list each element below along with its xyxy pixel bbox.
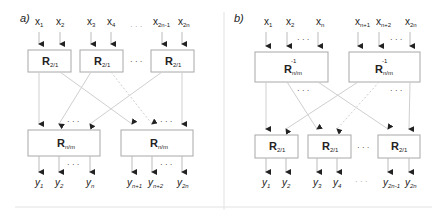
r21-block: R2/1 [151, 50, 194, 72]
svg-text:· · ·: · · · [355, 177, 367, 186]
r21-block: R2/1 [378, 135, 420, 158]
input-label: x2n-1 [153, 16, 171, 28]
svg-text:· · ·: · · · [160, 117, 172, 126]
svg-text:· · ·: · · · [160, 160, 172, 169]
ellipsis: · · · [130, 57, 142, 66]
svg-text:-1: -1 [291, 58, 297, 64]
output-label: y1 [261, 177, 270, 189]
input-label: x2n [178, 16, 190, 28]
panel-b-label: b) [234, 12, 244, 24]
output-label: y1 [34, 177, 43, 189]
output-label: y2n [404, 177, 417, 189]
diagram-canvas: a) x1 x2 x3 x4 x2n-1 x2n · · · R2/1 R [0, 0, 441, 217]
input-label: x2 [286, 16, 295, 28]
output-label: y4 [332, 177, 342, 189]
output-label: yn [85, 177, 95, 189]
output-label: yn+1 [126, 177, 142, 189]
output-label: y2 [54, 177, 64, 189]
input-label: x1 [35, 16, 44, 28]
output-label: y2n-1 [382, 177, 400, 189]
svg-text:-1: -1 [382, 58, 388, 64]
output-label: yn+2 [147, 177, 164, 189]
input-label: x1 [264, 16, 273, 28]
rnm-block: Rn/m [121, 130, 193, 156]
ellipsis: · · · [357, 143, 369, 152]
svg-text:· · ·: · · · [297, 86, 309, 95]
input-label: x4 [107, 16, 116, 28]
output-label: y2n [176, 177, 189, 189]
rnm-block: Rn/m [28, 130, 100, 156]
input-label: xn+1 [355, 16, 371, 28]
r21-block: R2/1 [308, 135, 351, 158]
rnm-inverse-block: Rn/m -1 [349, 52, 420, 82]
r21-block: R2/1 [28, 50, 71, 72]
input-label: x2 [56, 16, 65, 28]
panel-a: a) x1 x2 x3 x4 x2n-1 x2n · · · R2/1 R [20, 12, 194, 189]
svg-text:· · ·: · · · [297, 35, 309, 44]
input-label: xn [316, 16, 324, 28]
svg-text:· · ·: · · · [390, 86, 402, 95]
input-label: x2n [405, 16, 417, 28]
output-label: y2 [281, 177, 291, 189]
output-label: y3 [312, 177, 322, 189]
svg-text:· · ·: · · · [67, 160, 79, 169]
panel-a-label: a) [20, 12, 30, 24]
rnm-inverse-block: Rn/m -1 [255, 52, 328, 82]
ellipsis: · · · [130, 22, 142, 31]
r21-block: R2/1 [80, 50, 123, 72]
svg-text:· · ·: · · · [67, 117, 79, 126]
input-label: x3 [87, 16, 96, 28]
panel-b: b) x1 x2 xn xn+1 xn+2 x2n · · · · · · Rn… [234, 12, 420, 189]
shuffle-connections [266, 82, 410, 129]
input-label: xn+2 [376, 16, 392, 28]
svg-text:· · ·: · · · [390, 35, 402, 44]
r21-block: R2/1 [255, 135, 298, 158]
